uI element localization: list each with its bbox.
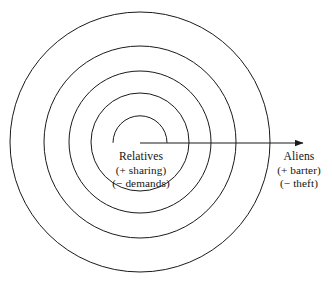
concentric-circle-figure: Relatives (+ sharing) (− demands) Aliens… <box>0 0 332 290</box>
inner-label-negative: (− demands) <box>112 177 169 190</box>
outer-label-aliens: Aliens (+ barter) (− theft) <box>277 150 321 190</box>
ring-4 <box>44 46 236 238</box>
inner-label-name: Relatives <box>112 150 169 164</box>
ring-5-outermost <box>10 12 270 272</box>
ring-3 <box>69 71 211 213</box>
concentric-rings <box>10 12 270 272</box>
inner-label-relatives: Relatives (+ sharing) (− demands) <box>112 150 169 190</box>
outer-label-name: Aliens <box>277 150 321 164</box>
outer-label-negative: (− theft) <box>277 177 321 190</box>
outer-label-positive: (+ barter) <box>277 164 321 177</box>
ring-1-innermost <box>113 116 167 143</box>
diagram-canvas <box>0 0 332 290</box>
inner-label-positive: (+ sharing) <box>112 164 169 177</box>
